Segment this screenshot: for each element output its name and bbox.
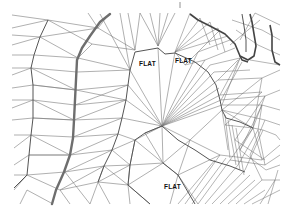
triangle-mesh-right <box>175 13 280 204</box>
flat-label-2: FLAT <box>175 57 192 64</box>
flat-label-1: FLAT <box>139 60 156 67</box>
flat-label-3: FLAT <box>164 183 181 190</box>
triangle-mesh-left <box>12 13 140 204</box>
tin-diagram <box>0 0 293 212</box>
triangle-mesh-center <box>60 13 222 204</box>
